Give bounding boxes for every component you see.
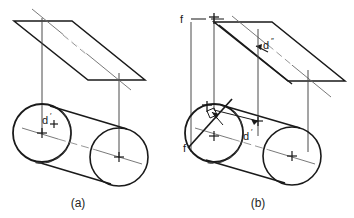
label-d-prime-b: d [243,130,249,142]
label-d-double-prime-b-sup: ″ [271,36,274,45]
label-d-prime-a: d [42,114,48,126]
figure-root: d ′ f f d ″ d ′ (a) (b) [0,0,354,218]
canvas-background [0,0,354,218]
caption-panel-b: (b) [251,196,266,210]
label-d-double-prime-b: d [263,39,269,51]
caption-panel-a: (a) [71,196,86,210]
engineering-drawing-svg: d ′ f f d ″ d ′ (a) (b) [0,0,354,218]
